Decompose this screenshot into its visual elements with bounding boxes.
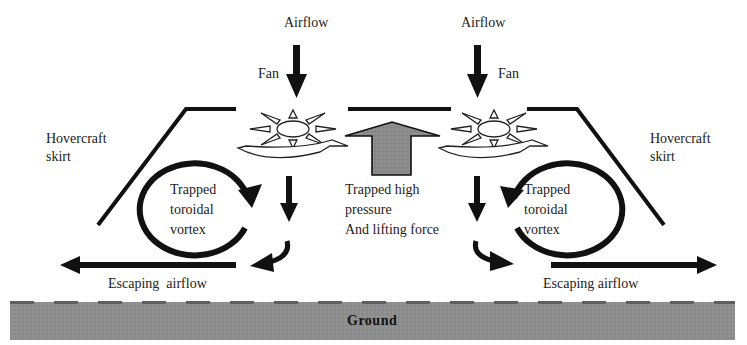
deflect-arrow-left <box>250 241 288 272</box>
hovercraft-diagram <box>0 0 747 345</box>
vortex-label-left: Trapped toroidal vortex <box>170 180 216 240</box>
airflow-label-left: Airflow <box>284 14 328 32</box>
skirt-label-right: Hovercraft skirt <box>650 130 711 166</box>
escaping-airflow-label-right: Escaping airflow <box>543 275 638 293</box>
intake-arrow-right <box>467 45 488 98</box>
fan-right-icon <box>439 110 548 158</box>
escape-arrow-left <box>60 256 236 274</box>
ground-dashed-edge <box>10 301 735 304</box>
downflow-arrow-left <box>280 176 298 222</box>
fan-label-right: Fan <box>498 65 519 83</box>
fan-label-left: Fan <box>258 65 279 83</box>
ground-label: Ground <box>347 313 397 329</box>
vortex-label-right: Trapped toroidal vortex <box>524 180 570 240</box>
intake-arrow-left <box>286 45 307 98</box>
escape-arrow-right <box>551 256 717 274</box>
deflect-arrow-right <box>475 241 514 271</box>
fan-left-icon <box>238 110 348 158</box>
skirt-label-left: Hovercraft skirt <box>46 130 107 166</box>
downflow-arrow-right <box>468 176 486 222</box>
escaping-airflow-label-left: Escaping airflow <box>108 275 207 293</box>
lift-arrow-icon <box>345 122 440 175</box>
airflow-label-right: Airflow <box>461 14 505 32</box>
pressure-label: Trapped high pressure And lifting force <box>345 180 439 240</box>
